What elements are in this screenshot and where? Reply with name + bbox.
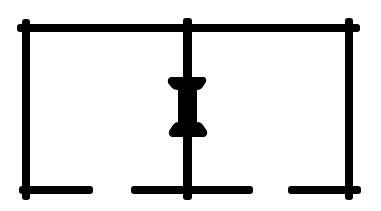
component-symbol	[168, 77, 207, 137]
right-post	[345, 18, 353, 200]
bottom-right-segment	[288, 186, 361, 194]
bottom-left-segment	[19, 186, 93, 194]
circuit-diagram	[0, 0, 381, 211]
bottom-middle-segment	[131, 186, 253, 194]
left-post	[22, 19, 30, 200]
